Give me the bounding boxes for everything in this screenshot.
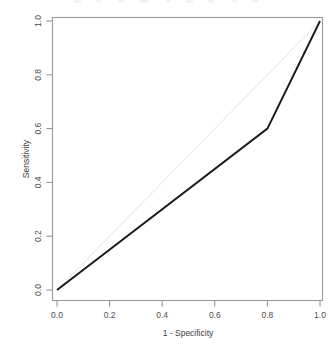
y-axis-tick-labels: 0.0 0.2 0.4 0.6 0.8 1.0 bbox=[33, 15, 43, 296]
y-axis-title: Sensitivity bbox=[21, 139, 31, 178]
reference-diagonal-line bbox=[57, 21, 320, 290]
x-tick-label: 0.8 bbox=[261, 310, 273, 320]
x-tick-label: 0.2 bbox=[104, 310, 116, 320]
y-tick-label: 0.2 bbox=[33, 230, 43, 242]
roc-chart-figure: 0.0 0.2 0.4 0.6 0.8 1.0 1 - Specificity … bbox=[0, 0, 335, 348]
y-tick-label: 0.0 bbox=[33, 284, 43, 296]
cropped-title-remnant bbox=[74, 0, 259, 3]
x-tick-label: 1.0 bbox=[314, 310, 326, 320]
x-tick-label: 0.6 bbox=[209, 310, 221, 320]
x-tick-label: 0.0 bbox=[51, 310, 63, 320]
y-tick-label: 0.8 bbox=[33, 69, 43, 81]
x-axis-title: 1 - Specificity bbox=[163, 328, 214, 338]
x-axis-tick-labels: 0.0 0.2 0.4 0.6 0.8 1.0 bbox=[51, 310, 326, 320]
y-axis-ticks bbox=[47, 21, 53, 290]
x-axis-ticks bbox=[57, 301, 320, 307]
y-tick-label: 1.0 bbox=[33, 15, 43, 27]
y-tick-label: 0.4 bbox=[33, 176, 43, 188]
y-tick-label: 0.6 bbox=[33, 122, 43, 134]
x-tick-label: 0.4 bbox=[156, 310, 168, 320]
roc-plot-canvas: 0.0 0.2 0.4 0.6 0.8 1.0 1 - Specificity … bbox=[0, 0, 335, 348]
